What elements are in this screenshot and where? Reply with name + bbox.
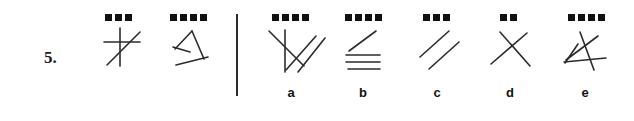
option-d-figure[interactable] [490,30,534,72]
square-dot-icon [190,14,197,21]
option-d-label[interactable]: d [500,85,520,100]
square-dot-icon [510,14,517,21]
option-a-figure[interactable] [268,28,328,76]
option-c-dot-row [423,14,450,21]
square-dot-icon [365,14,372,21]
stroke-line [420,31,449,57]
option-c-label[interactable]: c [427,85,447,100]
square-dot-icon [578,14,585,21]
question-number: 5. [44,48,57,68]
stroke-line [175,31,192,49]
stroke-line [298,38,325,72]
option-b-dot-row [345,14,382,21]
stroke-line [429,42,459,69]
option-a-dot-row [272,14,309,21]
square-dot-icon [568,14,575,21]
section-divider [236,14,238,96]
option-e-figure[interactable] [564,30,610,74]
stroke-line [491,33,527,64]
option-a-lines [268,28,328,76]
option-d-lines [490,30,534,72]
square-dot-icon [105,14,112,21]
prompt-figure-1-dot-row [105,14,132,21]
stroke-line [500,32,530,66]
square-dot-icon [282,14,289,21]
square-dot-icon [500,14,507,21]
square-dot-icon [355,14,362,21]
square-dot-icon [170,14,177,21]
stroke-line [580,32,594,70]
stroke-line [107,32,140,65]
square-dot-icon [433,14,440,21]
option-a-label[interactable]: a [281,85,301,100]
exercise-page: 5. a b c d e [0,0,634,121]
option-e-lines [564,30,610,74]
stroke-line [176,57,208,65]
option-c-figure[interactable] [419,29,463,75]
square-dot-icon [115,14,122,21]
square-dot-icon [125,14,132,21]
square-dot-icon [292,14,299,21]
square-dot-icon [443,14,450,21]
square-dot-icon [423,14,430,21]
option-b-label[interactable]: b [353,85,373,100]
square-dot-icon [345,14,352,21]
prompt-figure-2 [172,29,214,71]
prompt-figure-2-lines [172,29,214,71]
option-e-label[interactable]: e [575,85,595,100]
square-dot-icon [272,14,279,21]
square-dot-icon [588,14,595,21]
stroke-line [564,58,606,62]
stroke-line [269,31,304,66]
option-e-dot-row [568,14,605,21]
option-c-lines [419,29,463,75]
prompt-figure-2-dot-row [170,14,207,21]
square-dot-icon [180,14,187,21]
option-d-dot-row [500,14,517,21]
square-dot-icon [375,14,382,21]
stroke-line [192,31,204,59]
square-dot-icon [598,14,605,21]
option-b-lines [346,29,388,75]
prompt-figure-1 [102,26,144,68]
stroke-line [349,31,376,51]
prompt-figure-1-lines [102,26,144,68]
square-dot-icon [200,14,207,21]
option-b-figure[interactable] [346,29,388,75]
square-dot-icon [302,14,309,21]
